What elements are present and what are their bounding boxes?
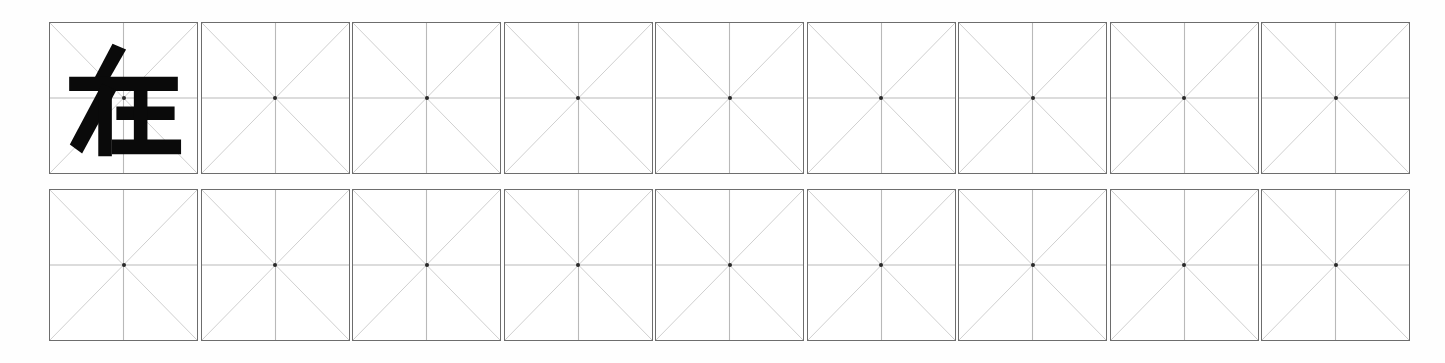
practice-cell-r1-c6[interactable] [807, 22, 956, 174]
practice-cell-r1-c7[interactable] [958, 22, 1107, 174]
grid-row [49, 189, 1410, 343]
character-grid: 在 [49, 22, 1410, 343]
practice-cell-r1-c8[interactable] [1110, 22, 1259, 174]
center-dot [728, 96, 732, 100]
practice-cell-r1-c5[interactable] [655, 22, 804, 174]
practice-worksheet: 在 [0, 0, 1445, 363]
practice-cell-r2-c3[interactable] [352, 189, 501, 341]
practice-cell-r1-c2[interactable] [201, 22, 350, 174]
center-dot [273, 263, 277, 267]
practice-cell-r1-c9[interactable] [1261, 22, 1410, 174]
center-dot [425, 263, 429, 267]
center-dot [1334, 263, 1338, 267]
center-dot [879, 263, 883, 267]
grid-row: 在 [49, 22, 1410, 176]
practice-cell-r2-c7[interactable] [958, 189, 1107, 341]
practice-cell-r2-c9[interactable] [1261, 189, 1410, 341]
practice-cell-r2-c4[interactable] [504, 189, 653, 341]
center-dot [1334, 96, 1338, 100]
practice-cell-r2-c2[interactable] [201, 189, 350, 341]
center-dot [576, 263, 580, 267]
center-dot [425, 96, 429, 100]
practice-cell-r2-c6[interactable] [807, 189, 956, 341]
practice-cell-r1-c4[interactable] [504, 22, 653, 174]
practice-cell-r1-c1[interactable]: 在 [49, 22, 198, 174]
center-dot [728, 263, 732, 267]
center-dot [1031, 263, 1035, 267]
center-dot [122, 263, 126, 267]
practice-cell-r2-c5[interactable] [655, 189, 804, 341]
practice-cell-r2-c8[interactable] [1110, 189, 1259, 341]
practice-cell-r1-c3[interactable] [352, 22, 501, 174]
center-dot [1182, 96, 1186, 100]
center-dot [1031, 96, 1035, 100]
practice-cell-r2-c1[interactable] [49, 189, 198, 341]
center-dot [576, 96, 580, 100]
center-dot [1182, 263, 1186, 267]
model-character-glyph [50, 23, 197, 173]
center-dot [273, 96, 277, 100]
center-dot [879, 96, 883, 100]
